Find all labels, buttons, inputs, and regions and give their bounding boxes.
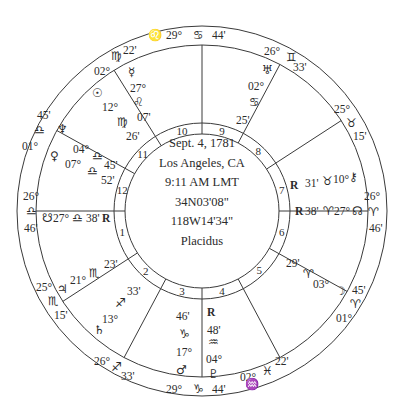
mercury-glyph-icon: ♌ <box>133 95 144 109</box>
chiron-glyph-icon: ♉ <box>322 174 333 188</box>
neptune-glyph-icon: ♎ <box>92 149 103 163</box>
leo-ring-icon: ♌ <box>148 28 162 42</box>
north-node-value: 38' <box>305 205 319 217</box>
north-node-placement: R38'♈27°☊ <box>295 204 363 218</box>
venus-glyph-icon: ♀ <box>50 149 59 163</box>
chiron-value: 10° <box>333 173 350 185</box>
chart-info-center: Sept. 4, 1781 Los Angeles, CA 9:11 AM LM… <box>124 134 280 251</box>
saturn-placement: ♄13°♐33' <box>94 285 141 337</box>
mars-placement: 46'♑17°♂ <box>176 310 193 377</box>
chart-latitude: 34N03'08" <box>124 193 280 213</box>
cusp-11-value: 22' <box>123 44 137 56</box>
mercury-glyph-icon: ☿ <box>128 65 135 79</box>
jupiter-value: 21° <box>70 274 87 286</box>
cusp-line-5 <box>238 279 280 358</box>
mercury-placement: ☿27°♌07' <box>128 65 151 123</box>
cusp-5-glyph-icon: ♓ <box>262 364 273 378</box>
cusp-5-value: 22' <box>275 355 289 367</box>
house-number-3: 3 <box>179 285 185 297</box>
ic-value: 29° <box>166 383 183 395</box>
mercury-value: 07' <box>137 111 151 123</box>
chiron-value: 31' <box>305 177 319 189</box>
cusp-11-glyph-icon: ♍ <box>111 49 122 63</box>
cusp-2-value: 25° <box>36 281 53 293</box>
chart-date: Sept. 4, 1781 <box>124 134 280 154</box>
uranus-value: 25' <box>236 114 250 126</box>
uranus-glyph-icon: ♅ <box>262 63 273 77</box>
chart-time: 9:11 AM LMT <box>124 173 280 193</box>
retrograde-icon: R <box>290 179 299 191</box>
north-node-glyph-icon: ☊ <box>352 204 363 218</box>
cusp-3-value: 26° <box>94 355 111 367</box>
south-node-glyph-icon: ♎ <box>72 211 83 225</box>
south-node-placement: ☋27°♎38'R <box>42 211 111 225</box>
house-number-4: 4 <box>219 285 225 297</box>
south-node-value: 38' <box>86 212 100 224</box>
dsc-glyph-icon: ♈ <box>368 205 379 219</box>
north-node-glyph-icon: ♈ <box>323 204 334 218</box>
venus-value: 52' <box>101 174 115 186</box>
leo-ring-value: ♌ <box>148 28 162 42</box>
dsc-value: 46' <box>369 222 383 234</box>
cusp-8-value: 15' <box>353 130 367 142</box>
chiron-glyph-icon: ⚷ <box>349 170 358 184</box>
north-node-value: 27° <box>334 205 351 217</box>
dsc-value: 26° <box>364 190 381 202</box>
jupiter-glyph-icon: ♃ <box>57 282 68 296</box>
sun-glyph-icon: ♍ <box>117 115 128 129</box>
cusp-6-value: 45' <box>352 284 366 296</box>
cusp-12-value: 45' <box>37 109 51 121</box>
mars-glyph-icon: ♑ <box>179 327 190 341</box>
asc-glyph-icon: ♎ <box>26 204 37 218</box>
pluto-glyph-icon: ♇ <box>208 367 219 381</box>
house-number-2: 2 <box>143 265 149 277</box>
chart-house-system: Placidus <box>124 232 280 252</box>
venus-value: 07° <box>65 158 82 170</box>
retrograde-icon: R <box>295 205 304 217</box>
mc-label: 29°♋44' <box>166 28 226 42</box>
asc-value: 46' <box>24 222 38 234</box>
cusp-12-value: 01° <box>22 140 39 152</box>
mars-value: 46' <box>176 310 190 322</box>
cusp-11-value: 02° <box>94 65 111 77</box>
pluto-glyph-icon: ♒ <box>208 335 219 349</box>
cusp-8-glyph-icon: ♉ <box>346 116 357 130</box>
neptune-value: 04° <box>73 143 90 155</box>
saturn-glyph-icon: ♐ <box>115 296 126 310</box>
cusp-9-value: 26° <box>264 45 281 57</box>
neptune-value: 45' <box>104 159 118 171</box>
mercury-value: 27° <box>130 82 147 94</box>
south-node-value: 27° <box>53 212 70 224</box>
house-number-5: 5 <box>257 264 263 276</box>
ic-label: 29°♑44' <box>166 382 226 396</box>
saturn-value: 13° <box>102 313 119 325</box>
chart-longitude: 118W14'34" <box>124 212 280 232</box>
venus-glyph-icon: ♎ <box>87 164 98 178</box>
ic-glyph-icon: ♑ <box>193 382 204 396</box>
ic-value: 44' <box>212 383 226 395</box>
aquarius-ring-icon: ♒ <box>245 377 259 391</box>
pluto-placement: R48'♒04°♇ <box>206 306 223 381</box>
moon-placement: 29'♈03°☽ <box>286 257 346 298</box>
uranus-value: 02° <box>248 80 265 92</box>
jupiter-placement: ♃21°♏23' <box>57 258 118 296</box>
cusp-9-value: 33' <box>293 61 307 73</box>
jupiter-value: 23' <box>104 258 118 270</box>
cusp-12-label: 45'♎01° <box>22 109 51 152</box>
moon-glyph-icon: ☽ <box>335 284 346 298</box>
moon-value: 03° <box>313 278 330 290</box>
cusp-6-glyph-icon: ♈ <box>350 297 361 311</box>
pluto-value: 04° <box>206 353 223 365</box>
chart-place: Los Angeles, CA <box>124 154 280 174</box>
sun-glyph-icon: ☉ <box>92 86 103 100</box>
uranus-placement: ♅02°♋25' <box>236 63 273 126</box>
saturn-value: 33' <box>127 285 141 297</box>
mc-value: 29° <box>166 29 183 41</box>
mars-glyph-icon: ♂ <box>176 363 187 377</box>
moon-value: 29' <box>286 257 300 269</box>
cusp-3-label: 26°♐33' <box>94 355 135 382</box>
south-node-glyph-icon: ☋ <box>42 211 53 225</box>
cusp-3-value: 33' <box>121 370 135 382</box>
asc-label: 26°♎46' <box>23 190 40 234</box>
saturn-glyph-icon: ♄ <box>94 323 105 337</box>
